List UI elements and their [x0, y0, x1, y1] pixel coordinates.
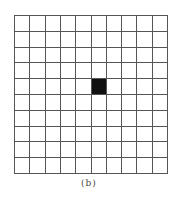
grid-cell: [14, 15, 29, 31]
grid-cell: [136, 15, 151, 31]
grid-cell: [45, 157, 60, 173]
grid-cell: [75, 157, 90, 173]
grid-cell: [45, 110, 60, 126]
grid-cell: [45, 15, 60, 31]
grid-cell: [60, 110, 75, 126]
grid-cell: [152, 47, 167, 63]
grid-cell: [152, 126, 167, 142]
grid-cell: [136, 31, 151, 47]
grid-cell: [60, 47, 75, 63]
grid-cell: [75, 15, 90, 31]
grid-cell: [75, 78, 90, 94]
grid-cell: [106, 62, 121, 78]
grid-cell: [45, 141, 60, 157]
grid-cell: [14, 126, 29, 142]
grid-cell: [29, 31, 44, 47]
grid-cell: [29, 78, 44, 94]
grid-cell: [60, 15, 75, 31]
grid-cell: [14, 110, 29, 126]
figure: (b): [0, 0, 178, 204]
grid-cell: [152, 15, 167, 31]
grid-cell: [60, 78, 75, 94]
grid-cell: [29, 47, 44, 63]
grid-cell: [45, 62, 60, 78]
grid-cell: [106, 141, 121, 157]
grid-cell: [121, 62, 136, 78]
grid-cell: [75, 141, 90, 157]
grid-cell: [14, 157, 29, 173]
grid-cell: [152, 157, 167, 173]
grid-cell: [91, 141, 106, 157]
grid-cell: [136, 62, 151, 78]
grid-cell: [91, 126, 106, 142]
grid-cell: [75, 126, 90, 142]
grid-cell: [29, 141, 44, 157]
grid-cell: [45, 126, 60, 142]
grid-cell: [60, 141, 75, 157]
grid-cell: [75, 110, 90, 126]
grid-cell: [136, 78, 151, 94]
grid-cell: [75, 94, 90, 110]
grid-cell: [106, 94, 121, 110]
grid-cell: [14, 141, 29, 157]
grid-cell: [91, 62, 106, 78]
grid-cell: [121, 141, 136, 157]
grid-cell: [152, 110, 167, 126]
grid-cell: [29, 110, 44, 126]
grid-cell: [136, 110, 151, 126]
grid-cell: [29, 126, 44, 142]
grid-cell: [106, 157, 121, 173]
grid-cell: [152, 141, 167, 157]
grid-cell: [106, 31, 121, 47]
grid-cell: [60, 62, 75, 78]
grid-cell: [121, 126, 136, 142]
grid-cell: [121, 31, 136, 47]
grid-cell: [136, 126, 151, 142]
grid-cell: [121, 94, 136, 110]
grid-cell: [60, 157, 75, 173]
grid-cell: [60, 94, 75, 110]
grid-cell: [106, 110, 121, 126]
grid-cell: [121, 15, 136, 31]
grid-cell: [106, 78, 121, 94]
grid-cell: [75, 31, 90, 47]
grid-cell: [91, 31, 106, 47]
grid-cell: [91, 47, 106, 63]
pixel-grid: [14, 15, 168, 174]
grid-cell: [60, 126, 75, 142]
grid-cell: [14, 62, 29, 78]
grid-cell: [121, 157, 136, 173]
grid-cell: [91, 94, 106, 110]
grid-cell: [45, 94, 60, 110]
grid-cell: [29, 15, 44, 31]
grid-cell: [75, 47, 90, 63]
grid-cell: [91, 15, 106, 31]
grid-cell: [14, 31, 29, 47]
grid-cell: [14, 78, 29, 94]
grid-cell: [152, 94, 167, 110]
grid-cell: [106, 47, 121, 63]
grid-cell: [152, 31, 167, 47]
grid-cell: [91, 157, 106, 173]
grid-cell: [136, 47, 151, 63]
grid-cell: [75, 62, 90, 78]
grid-cell: [152, 62, 167, 78]
grid-cell: [14, 94, 29, 110]
grid-cell: [136, 157, 151, 173]
grid-cell: [91, 110, 106, 126]
figure-caption: (b): [0, 178, 178, 188]
grid-cell: [29, 62, 44, 78]
grid-cell: [121, 47, 136, 63]
grid-cell: [121, 78, 136, 94]
grid-cell: [152, 78, 167, 94]
grid-cell: [29, 94, 44, 110]
grid-cell: [14, 47, 29, 63]
grid-cell: [45, 78, 60, 94]
grid-cell: [106, 15, 121, 31]
grid-cell: [106, 126, 121, 142]
grid-cell: [136, 141, 151, 157]
grid-cell: [136, 94, 151, 110]
grid-cell: [60, 31, 75, 47]
grid-cell: [45, 47, 60, 63]
grid-cell: [29, 157, 44, 173]
